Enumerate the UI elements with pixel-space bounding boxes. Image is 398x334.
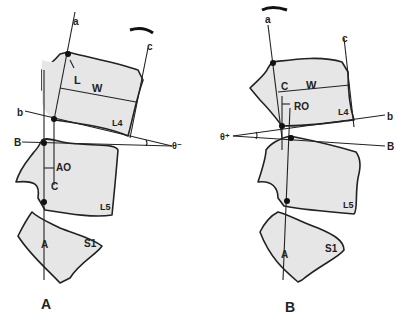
label-a: a bbox=[73, 16, 79, 27]
landmark-dot bbox=[284, 198, 290, 204]
label-C: C bbox=[281, 81, 288, 92]
caption-b: B bbox=[285, 299, 295, 315]
label-S1: S1 bbox=[84, 238, 97, 249]
landmark-dot bbox=[41, 199, 47, 205]
label-W: W bbox=[92, 82, 103, 94]
label-RO: RO bbox=[294, 101, 309, 112]
landmark-dot bbox=[41, 140, 47, 146]
label-B: B bbox=[14, 137, 21, 148]
label-L4: L4 bbox=[338, 107, 349, 117]
label-S1: S1 bbox=[325, 243, 338, 254]
theta-arc-b bbox=[256, 132, 257, 139]
label-b: b bbox=[17, 107, 23, 118]
panel-b: a c C W RO L4 b θ⁺ B L5 A S1 B bbox=[220, 8, 394, 316]
panel-a: a c L W b L4 B θ⁻ AO C L5 A S1 A bbox=[14, 12, 182, 312]
lumbar-spine-diagram: a c L W b L4 B θ⁻ AO C L5 A S1 A bbox=[0, 0, 398, 334]
label-theta: θ⁻ bbox=[172, 141, 182, 151]
rotation-arrow-icon bbox=[130, 29, 153, 33]
caption-a: A bbox=[41, 296, 51, 312]
landmark-dot bbox=[270, 60, 276, 66]
label-a: a bbox=[265, 14, 271, 25]
theta-arc-a bbox=[146, 140, 147, 146]
label-C: C bbox=[51, 181, 58, 192]
landmark-dot bbox=[279, 123, 285, 129]
label-A: A bbox=[41, 239, 48, 250]
label-L: L bbox=[74, 74, 81, 86]
label-A: A bbox=[281, 249, 288, 260]
label-b: b bbox=[387, 111, 393, 122]
landmark-dot bbox=[288, 135, 294, 141]
label-theta: θ⁺ bbox=[220, 132, 230, 142]
landmark-dot bbox=[51, 116, 57, 122]
landmark-dot bbox=[65, 51, 71, 57]
label-c: c bbox=[342, 33, 348, 44]
rotation-arrow-icon bbox=[262, 8, 287, 11]
label-AO: AO bbox=[56, 162, 71, 173]
label-W: W bbox=[306, 79, 317, 91]
label-L5: L5 bbox=[100, 202, 111, 212]
label-L5: L5 bbox=[343, 200, 354, 210]
label-c: c bbox=[147, 41, 153, 52]
label-B: B bbox=[387, 141, 394, 152]
label-L4: L4 bbox=[112, 118, 123, 128]
